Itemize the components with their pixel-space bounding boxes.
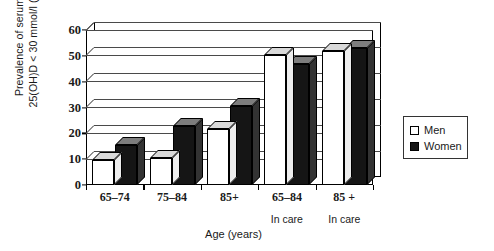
- bar-side-face: [229, 121, 237, 185]
- bar-front-face: [207, 129, 229, 185]
- legend-swatch-women-icon: [410, 142, 419, 151]
- plot-area: 0102030405060: [86, 22, 381, 185]
- bar-front-face: [322, 51, 344, 185]
- bar-side-face: [286, 47, 294, 185]
- y-tick-label: 60: [69, 23, 82, 38]
- x-tick-label-4: 65–84In care: [258, 190, 315, 227]
- bar-chart-figure: Prevalence of serum 25(OH)D < 30 mmol/l …: [0, 0, 494, 251]
- x-axis-title: Age (years): [86, 228, 381, 240]
- bar-men-group-2: [150, 158, 172, 185]
- x-tick-label-main: 65–84: [272, 190, 302, 204]
- x-tick-mark: [143, 185, 144, 190]
- bar-side-face: [195, 118, 203, 185]
- bar-side-face: [252, 98, 260, 185]
- y-tick-label: 10: [69, 152, 82, 167]
- x-tick-mark: [373, 185, 374, 190]
- x-tick-label-1: 65–74: [86, 190, 143, 205]
- chart-legend: Men Women: [403, 116, 468, 159]
- x-tick-label-3: 85+: [201, 190, 258, 205]
- legend-swatch-men-icon: [410, 126, 419, 135]
- y-axis-title: Prevalence of serum 25(OH)D < 30 mmol/l …: [9, 0, 43, 135]
- bar-side-face: [367, 40, 375, 185]
- y-axis-title-line-1: Prevalence of serum: [12, 0, 26, 96]
- y-tick-label: 50: [69, 48, 82, 63]
- y-tick-label: 0: [75, 178, 81, 193]
- bar-side-face: [137, 137, 145, 185]
- x-tick-label-sub: In care: [316, 212, 373, 227]
- bar-front-face: [92, 160, 114, 185]
- bar-side-face: [309, 56, 317, 185]
- bar-front-face: [264, 55, 286, 185]
- y-tick-label: 40: [69, 74, 82, 89]
- legend-item-men: Men: [410, 122, 467, 138]
- bar-front-face: [150, 158, 172, 185]
- legend-label-men: Men: [424, 124, 445, 136]
- x-tick-label-main: 65–74: [100, 190, 130, 204]
- x-tick-label-main: 75–84: [157, 190, 187, 204]
- bar-side-face: [344, 43, 352, 185]
- y-axis-title-line-2: 25(OH)D < 30 mmol/l (%): [26, 0, 40, 108]
- bar-men-group-5: [322, 51, 344, 185]
- legend-item-women: Women: [410, 138, 467, 154]
- y-tick-label: 30: [69, 100, 82, 115]
- bar-men-group-1: [92, 160, 114, 185]
- bar-series-layer: [86, 22, 381, 185]
- x-tick-label-sub: In care: [258, 212, 315, 227]
- y-tick-label: 20: [69, 126, 82, 141]
- x-tick-label-2: 75–84: [143, 190, 200, 205]
- legend-label-women: Women: [424, 140, 462, 152]
- x-tick-mark: [86, 185, 87, 190]
- x-tick-label-main: 85 +: [333, 190, 355, 204]
- x-tick-mark: [316, 185, 317, 190]
- x-tick-mark: [201, 185, 202, 190]
- bar-men-group-3: [207, 129, 229, 185]
- x-tick-label-5: 85 +In care: [316, 190, 373, 227]
- bar-men-group-4: [264, 55, 286, 185]
- x-tick-mark: [258, 185, 259, 190]
- x-tick-label-main: 85+: [220, 190, 239, 204]
